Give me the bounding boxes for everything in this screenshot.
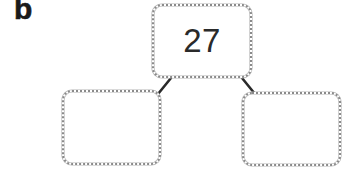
root-number-box: 27 [152, 4, 252, 78]
root-value: 27 [183, 22, 221, 60]
left-child-box[interactable] [62, 90, 161, 165]
right-child-box[interactable] [242, 92, 341, 166]
figure-label: b [14, 0, 32, 24]
connector-left [158, 78, 171, 94]
